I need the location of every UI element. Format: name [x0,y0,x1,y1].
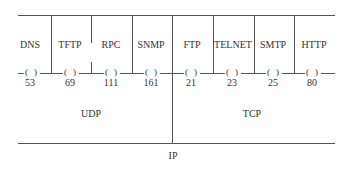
port-number-ftp: 21 [186,77,196,89]
protocol-ftp: FTP [183,39,200,51]
port-number-telnet: 23 [227,77,237,89]
transport-tcp-label: TCP [243,108,261,120]
port-number-smtp: 25 [268,77,278,89]
protocol-telnet: TELNET [214,39,252,51]
divider-tftp-rpc-upper [91,15,92,43]
port-number-rpc: 111 [104,77,118,89]
port-number-snmp: 161 [144,77,159,89]
protocol-smtp: SMTP [260,39,286,51]
divider-telnet-smtp [254,15,255,73]
protocol-http: HTTP [302,39,327,51]
ip-line [18,143,335,144]
network-ip-label: IP [169,150,178,162]
divider-smtp-http [294,15,295,73]
protocol-rpc: RPC [102,39,121,51]
divider-tftp-rpc-lower [91,62,92,73]
port-number-dns: 53 [25,77,35,89]
divider-dns-tftp [51,15,52,73]
transport-udp-label: UDP [81,108,101,120]
port-number-tftp: 69 [65,77,75,89]
divider-udp-tcp [172,15,173,143]
protocol-tftp: TFTP [58,39,81,51]
divider-rpc-snmp [132,15,133,73]
protocol-dns: DNS [20,39,40,51]
protocol-snmp: SNMP [137,39,164,51]
port-number-http: 80 [307,77,317,89]
top-boundary-line [18,15,335,16]
